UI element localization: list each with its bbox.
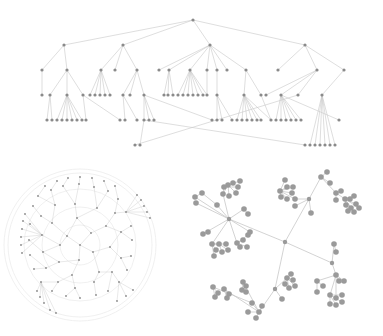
radial-node [79,176,81,178]
edge-line [229,219,250,232]
edge-line [79,177,80,184]
graph-node [199,190,205,196]
graph-node [225,247,231,253]
edge-line [190,45,210,70]
tree-node [45,118,48,121]
radial-node [120,257,122,259]
radial-node [118,281,120,283]
radial-node [107,290,109,292]
tree-node [48,93,51,96]
graph-node [249,300,255,306]
tree-node [337,118,340,121]
graph-node [223,241,229,247]
graph-node [336,278,342,284]
radial-node [120,231,122,233]
graph-node [338,188,344,194]
force-directed-graph [192,169,362,321]
edge-line [207,45,210,70]
graph-node [240,237,246,243]
radial-node [91,177,93,179]
edge-line [196,203,229,219]
graph-node [342,196,348,202]
tree-node [320,93,323,96]
radial-node [44,185,46,187]
graph-node [219,249,225,255]
graph-node [333,190,339,196]
tree-node [215,68,218,71]
tree-node [81,93,84,96]
radial-node [126,269,128,271]
tree-node [279,118,282,121]
graph-node [237,178,243,184]
edge-line [67,70,83,95]
tree-node [80,118,83,121]
radial-node [40,215,42,217]
radial-node [143,205,145,207]
tree-node [303,143,306,146]
tree-node [242,93,245,96]
radial-node [67,177,69,179]
graph-node [292,203,298,209]
edge-line [281,95,301,120]
graph-node [288,271,294,277]
graph-node [286,285,292,291]
edge-line [126,195,137,212]
tree-node [188,68,191,71]
radial-node [98,271,100,273]
tree-node [50,118,53,121]
edge-line [62,95,67,120]
radial-node [125,295,127,297]
edge-line [101,70,110,95]
tree-node [152,118,155,121]
tree-node [244,68,247,71]
graph-node [245,211,251,217]
edge-line [33,206,41,216]
radial-node [32,205,34,207]
radial-node [130,225,132,227]
edge-line [34,268,46,269]
edge-line [41,216,52,223]
tree-node [142,118,145,121]
edge-line [121,226,131,232]
edge-line [144,120,305,145]
tree-node [113,68,116,71]
edge-line [210,45,227,70]
tree-node [342,68,345,71]
graph-node [331,241,337,247]
graph-node [225,182,231,188]
tree-node [75,118,78,121]
edge-line [121,258,127,270]
edge-line [169,70,173,95]
edge-line [144,95,149,120]
radial-node [20,236,22,238]
graph-node [279,296,285,302]
edge-line [90,70,101,95]
edge-line [29,240,43,252]
graph-node [333,249,339,255]
tree-node [88,93,91,96]
radial-node [114,212,116,214]
tree-node [240,118,243,121]
hub-node [227,217,231,221]
edge-line [121,232,132,240]
graph-node [210,284,216,290]
radial-node [132,289,134,291]
tree-node [121,93,124,96]
edge-line [101,70,105,95]
tree-node [60,118,63,121]
radial-node [49,309,51,311]
graph-node [343,202,349,208]
edge-line [92,178,94,187]
edge-line [101,45,123,70]
radial-node [42,251,44,253]
edge-line [83,95,120,120]
edge-line [330,275,336,295]
tree-node [135,68,138,71]
edge-line [126,200,141,212]
radial-node [78,183,80,185]
graph-node [245,309,251,315]
edge-line [41,282,50,310]
graph-node [241,206,247,212]
radial-node [55,312,57,314]
tree-node [264,93,267,96]
